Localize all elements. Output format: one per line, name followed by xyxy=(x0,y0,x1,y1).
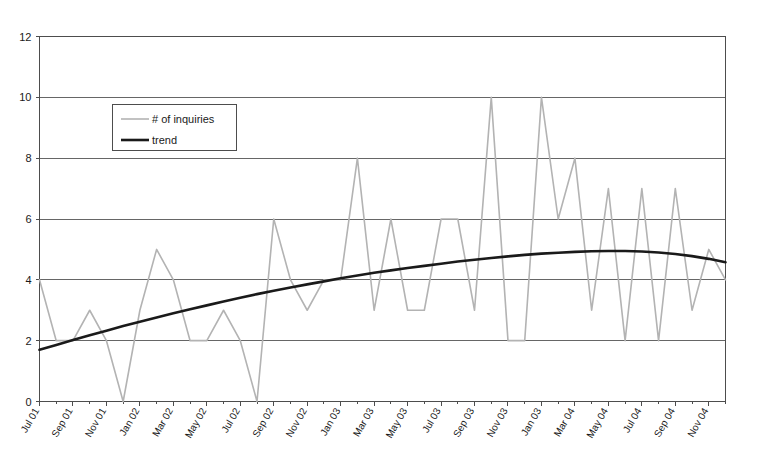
y-axis-tick-label: 8 xyxy=(25,152,31,164)
x-axis-tick-label: Nov 04 xyxy=(685,406,711,439)
x-axis-tick-label: Nov 01 xyxy=(83,406,109,439)
x-axis-tick-label: Jul 03 xyxy=(420,406,443,435)
x-axis-tick-label: Sep 04 xyxy=(652,406,678,439)
legend-label: # of inquiries xyxy=(152,113,215,125)
line-chart: 024681012 Jul 01Sep 01Nov 01Jan 02Mar 02… xyxy=(0,0,766,476)
x-axis-tick-label: Mar 03 xyxy=(351,406,376,439)
y-axis-tick-label: 0 xyxy=(25,396,31,408)
x-axis-tick-label: Jan 02 xyxy=(117,406,142,438)
x-axis-tick-label: Jul 04 xyxy=(621,406,644,435)
x-axis-tick-label: Jul 02 xyxy=(219,406,242,435)
x-axis-tick-label: Sep 02 xyxy=(250,406,276,439)
chart-legend: # of inquiriestrend xyxy=(112,104,236,150)
x-axis-tick-label: Mar 04 xyxy=(552,406,577,439)
x-axis-tick-label: May 03 xyxy=(383,406,409,440)
x-axis-tick-label: Jan 03 xyxy=(318,406,343,438)
y-axis-tick-label: 12 xyxy=(19,31,31,43)
x-axis-tick-label: Mar 02 xyxy=(150,406,175,439)
x-axis-tick-label: Sep 01 xyxy=(49,406,75,439)
x-axis-tick-label: Nov 03 xyxy=(484,406,510,439)
x-axis-tick-label: May 04 xyxy=(584,406,610,440)
x-axis-tick-label: Sep 03 xyxy=(451,406,477,439)
x-axis-tick-label: Nov 02 xyxy=(284,406,310,439)
y-axis-tick-label: 6 xyxy=(25,213,31,225)
x-axis-tick-label: May 02 xyxy=(183,406,209,440)
x-axis-tick-label: Jul 01 xyxy=(18,406,41,435)
y-axis-tick-label: 4 xyxy=(25,274,31,286)
legend-label: trend xyxy=(152,134,177,146)
chart-container: 024681012 Jul 01Sep 01Nov 01Jan 02Mar 02… xyxy=(0,0,766,476)
y-axis-tick-label: 10 xyxy=(19,91,31,103)
x-axis-tick-label: Jan 03 xyxy=(519,406,544,438)
x-axis-labels: Jul 01Sep 01Nov 01Jan 02Mar 02May 02Jul … xyxy=(18,406,710,440)
y-axis-labels: 024681012 xyxy=(19,31,31,408)
y-axis-tick-label: 2 xyxy=(25,335,31,347)
